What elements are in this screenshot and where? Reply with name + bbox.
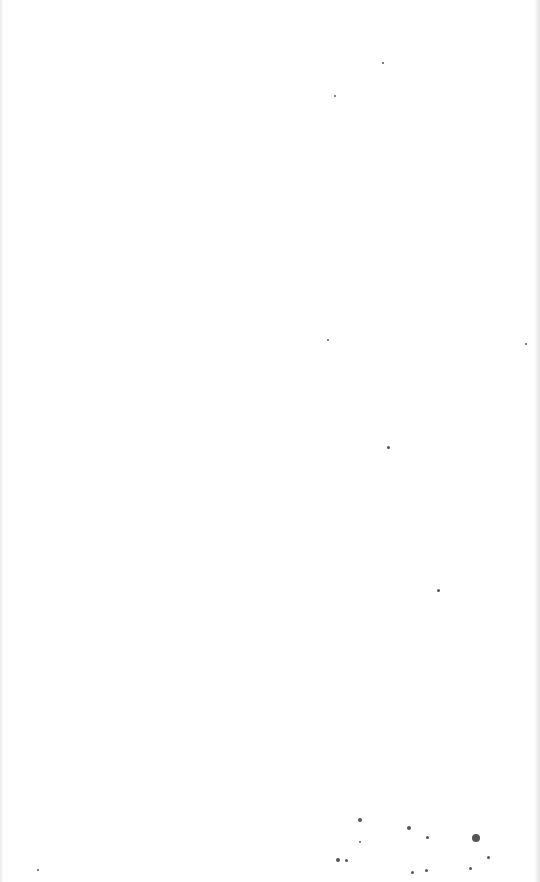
speck — [411, 871, 414, 874]
speck — [336, 858, 340, 862]
speck — [345, 859, 348, 862]
speck — [487, 856, 490, 859]
blank-page — [0, 0, 540, 882]
speck — [469, 867, 472, 870]
speck — [426, 836, 429, 839]
page-edge-right — [534, 0, 540, 882]
speck — [334, 95, 336, 97]
speck — [525, 343, 527, 345]
speck — [382, 62, 384, 64]
speck — [425, 869, 428, 872]
speck — [327, 339, 329, 341]
speck — [359, 841, 361, 843]
speck — [358, 818, 362, 822]
speck — [407, 826, 411, 830]
page-edge-left — [0, 0, 4, 882]
speck — [387, 446, 390, 449]
speck — [437, 589, 440, 592]
speck — [472, 834, 480, 842]
speck — [37, 869, 39, 871]
